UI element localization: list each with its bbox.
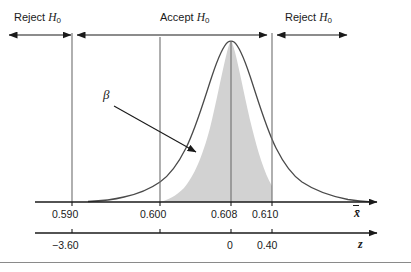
reject-right-label: Reject H0 bbox=[285, 12, 332, 25]
beta-annotation-arrow bbox=[114, 106, 196, 152]
x-tick-label-0590: 0.590 bbox=[52, 209, 78, 220]
z-axis bbox=[35, 229, 377, 233]
h0-symbol-center: H0 bbox=[197, 11, 210, 23]
distribution-diagram bbox=[0, 0, 411, 272]
x-bar-axis-label: x̄ bbox=[354, 207, 360, 219]
x-tick-label-0600: 0.600 bbox=[140, 209, 166, 220]
x-tick-label-0610: 0.610 bbox=[252, 209, 278, 220]
x-tick-label-0608: 0.608 bbox=[211, 209, 237, 220]
beta-symbol-label: β bbox=[103, 88, 109, 101]
z-tick-label-zero: 0 bbox=[227, 240, 233, 251]
z-tick-label-minus360: −3.60 bbox=[52, 240, 79, 251]
h0-symbol-right: H0 bbox=[319, 11, 332, 23]
bottom-divider bbox=[0, 262, 411, 263]
reject-left-label: Reject H0 bbox=[14, 12, 61, 25]
z-axis-label: z bbox=[358, 238, 363, 250]
h0-symbol-left: H0 bbox=[48, 11, 61, 23]
z-tick-label-040: 0.40 bbox=[257, 240, 277, 251]
accept-label: Accept H0 bbox=[160, 12, 209, 25]
x-bar-axis bbox=[35, 202, 377, 206]
